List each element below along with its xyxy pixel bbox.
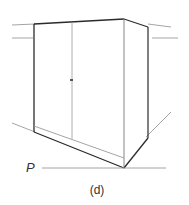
perspective-drawing: P (d) (0, 0, 189, 205)
door-handle-icon (70, 79, 73, 81)
cabinet-front (34, 19, 124, 168)
figure-caption: (d) (90, 183, 105, 197)
right-guide-lines (148, 24, 178, 38)
left-guide-lines (12, 24, 35, 38)
cabinet-side (124, 19, 148, 168)
point-label: P (26, 160, 35, 175)
